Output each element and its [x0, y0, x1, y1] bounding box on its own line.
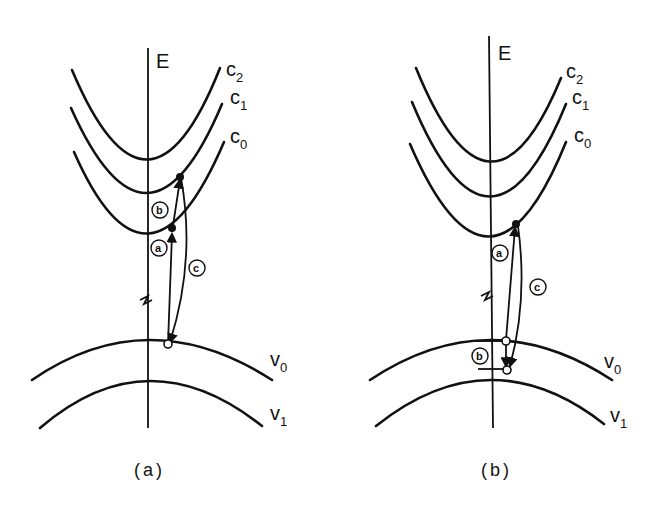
- panel-b: E c2 c1 c0 v0 v1 a b c (b): [370, 36, 627, 480]
- valence-band-v1: [40, 381, 262, 428]
- transition-a-arrow: [168, 234, 172, 344]
- label-c1: c1: [572, 86, 589, 113]
- marker-label-b: b: [156, 204, 163, 216]
- marker-label-c: c: [193, 262, 199, 274]
- energy-axis-label: E: [498, 42, 511, 64]
- electron-dot: [512, 220, 520, 228]
- label-v0: v0: [604, 350, 621, 377]
- valence-band-v0: [32, 340, 272, 380]
- transition-c-arrow: [170, 178, 186, 342]
- conduction-band-c2: [416, 68, 561, 162]
- label-c0: c0: [574, 124, 591, 151]
- label-v1: v1: [610, 404, 627, 431]
- label-v0: v0: [270, 348, 287, 375]
- hole-dot: [503, 366, 511, 374]
- conduction-band-c0: [410, 142, 566, 237]
- axis-break-icon: [140, 296, 152, 304]
- marker-label-b: b: [476, 350, 483, 362]
- electron-dot: [176, 173, 184, 181]
- hole-dot: [164, 340, 172, 348]
- electron-dot: [168, 224, 176, 232]
- label-c2: c2: [566, 60, 583, 87]
- label-c1: c1: [230, 86, 247, 113]
- band-diagram: E c2 c1 c0 v0 v1 b a c (a) E: [0, 0, 652, 506]
- panel-a: E c2 c1 c0 v0 v1 b a c (a): [32, 48, 287, 480]
- panel-caption-b: (b): [481, 460, 512, 480]
- hole-dot: [502, 337, 510, 345]
- panel-caption-a: (a): [134, 460, 165, 480]
- label-c0: c0: [230, 125, 247, 152]
- transition-c-arrow: [510, 226, 522, 366]
- energy-axis-label: E: [156, 50, 169, 72]
- conduction-band-c2: [72, 68, 220, 160]
- marker-label-a: a: [496, 247, 503, 259]
- transition-a-arrow: [506, 228, 515, 340]
- label-v1: v1: [270, 402, 287, 429]
- label-c2: c2: [226, 58, 243, 85]
- conduction-band-c1: [71, 104, 222, 193]
- valence-band-v0: [370, 340, 612, 380]
- marker-label-a: a: [155, 242, 162, 254]
- valence-band-v1: [376, 380, 604, 426]
- marker-label-c: c: [534, 281, 540, 293]
